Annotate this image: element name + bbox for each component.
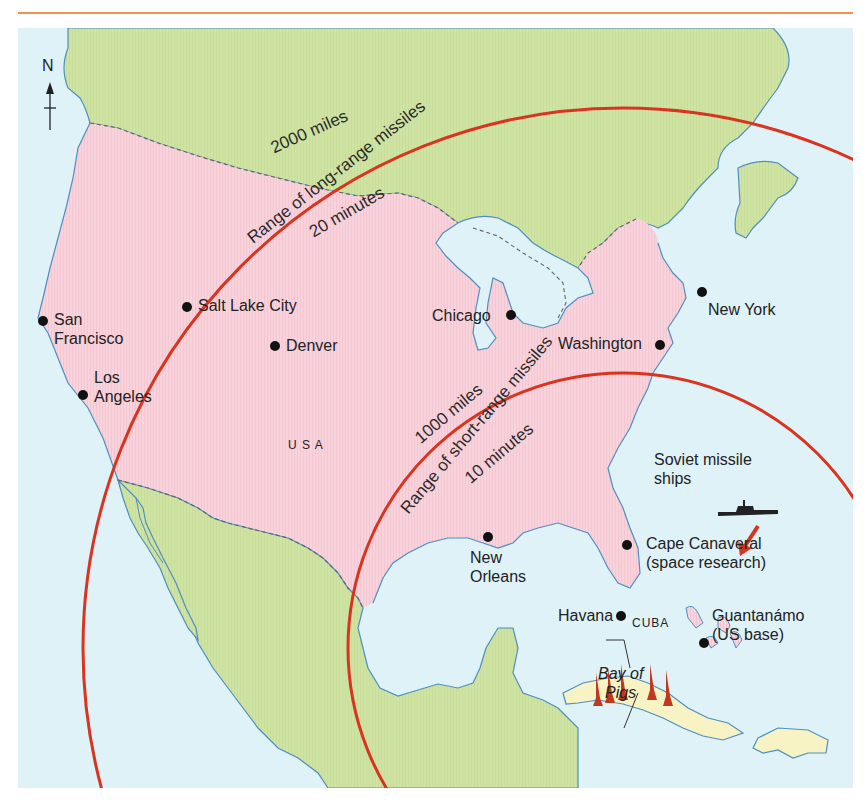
city-label-guantanamo: Guantanámo(US base) [712,606,805,644]
maritimes-landmass [735,161,798,238]
city-label-new-orleans: NewOrleans [470,548,526,586]
map-frame: N SanFrancisco Salt Lake City Denver Los… [18,28,853,788]
hispaniola-island [753,728,828,758]
top-rule [18,12,853,14]
country-label-cuba: CUBA [632,614,669,633]
city-label-san-francisco: SanFrancisco [54,310,123,348]
city-dot-guantanamo [699,638,709,648]
city-label-cape-canaveral: Cape Canaveral(space research) [646,534,766,572]
city-label-havana: Havana [558,606,613,625]
compass-north-label: N [42,56,54,75]
city-dot-chicago [506,310,516,320]
city-dot-denver [270,341,280,351]
city-label-salt-lake-city: Salt Lake City [198,296,297,315]
city-dot-havana [616,611,626,621]
city-label-washington: Washington [558,334,642,353]
city-dot-los-angeles [78,390,88,400]
city-dot-san-francisco [38,316,48,326]
city-dot-new-orleans [483,532,493,542]
north-arrow: N [46,70,66,150]
ship-icon [718,500,778,516]
map-canvas [18,28,853,788]
country-label-usa: U S A [288,436,324,455]
city-label-new-york: New York [708,300,776,319]
city-label-denver: Denver [286,336,338,355]
city-dot-cape-canaveral [622,540,632,550]
city-dot-salt-lake-city [182,302,192,312]
label-bay-of-pigs: Bay ofPigs [598,664,643,702]
city-dot-new-york [697,287,707,297]
north-arrow-icon [40,78,60,148]
city-label-los-angeles: LosAngeles [94,368,152,406]
city-dot-washington [655,340,665,350]
label-soviet-missile-ships: Soviet missileships [654,450,752,488]
city-label-chicago: Chicago [432,306,491,325]
